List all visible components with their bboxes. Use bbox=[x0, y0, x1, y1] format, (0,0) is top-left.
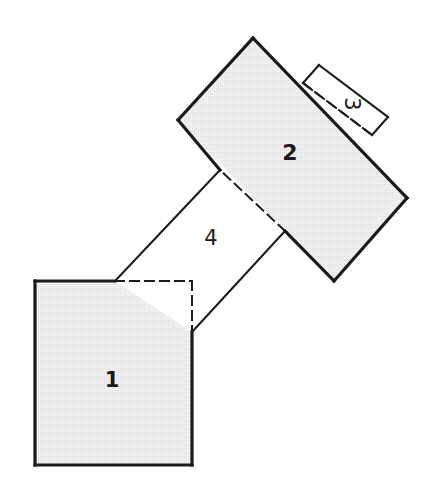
diagram-canvas: 1 2 3 4 bbox=[0, 0, 436, 500]
region-1-label: 1 bbox=[105, 368, 120, 392]
shape-diagram-figure: 1 2 3 4 bbox=[0, 0, 436, 500]
region-2-label: 2 bbox=[282, 140, 297, 165]
region-3-label: 3 bbox=[340, 97, 364, 110]
region-4-label: 4 bbox=[204, 226, 217, 250]
